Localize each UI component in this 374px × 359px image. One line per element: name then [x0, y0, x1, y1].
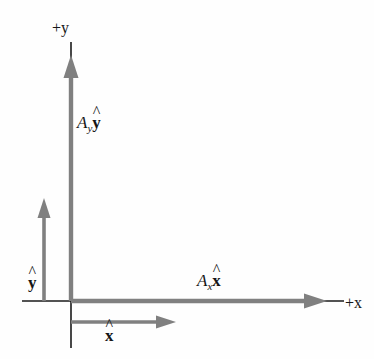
x-unit-vector-label: ^x — [105, 327, 114, 344]
a-y-amplitude: A — [77, 113, 87, 132]
y-hat-glyph: ^y — [28, 274, 37, 291]
y-hat-glyph: ^y — [92, 114, 101, 131]
a-x-component-label: Ax^x — [197, 272, 221, 292]
positive-y-sign: +y — [52, 19, 69, 36]
vector-component-diagram: +y +x Ay^y Ax^x ^y ^x — [0, 0, 374, 359]
hat-accent-icon: ^ — [28, 264, 36, 280]
positive-x-sign: +x — [345, 294, 362, 311]
x-unit-vector-arrowhead — [156, 316, 176, 329]
positive-y-axis-label: +y — [52, 20, 69, 36]
a-x-component-arrowhead — [304, 294, 327, 309]
x-hat-glyph: ^x — [105, 327, 114, 344]
y-unit-vector-label: ^y — [28, 274, 37, 291]
hat-accent-icon: ^ — [213, 262, 221, 278]
x-hat-glyph: ^x — [212, 272, 221, 289]
hat-accent-icon: ^ — [105, 317, 113, 333]
a-y-component-label: Ay^y — [77, 114, 101, 134]
positive-x-axis-label: +x — [345, 295, 362, 311]
a-x-component-vector — [71, 294, 327, 309]
a-y-component-vector — [64, 55, 79, 301]
y-unit-vector — [38, 198, 51, 301]
a-x-amplitude: A — [197, 271, 207, 290]
y-unit-vector-arrowhead — [38, 198, 51, 218]
diagram-canvas — [0, 0, 374, 359]
a-y-component-arrowhead — [64, 55, 79, 78]
hat-accent-icon: ^ — [93, 104, 101, 120]
x-unit-vector — [71, 316, 176, 329]
